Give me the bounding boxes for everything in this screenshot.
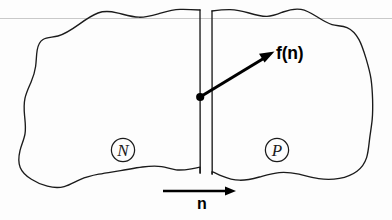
normal-vector-arrowhead — [225, 187, 236, 196]
traction-vector-label: f(n) — [276, 45, 303, 63]
region-p-badge: P — [265, 138, 288, 161]
figure-container: N P f(n) n — [0, 0, 392, 220]
region-n-badge: N — [111, 138, 134, 161]
region-p-outline — [212, 9, 373, 180]
traction-vector-shaft — [200, 57, 266, 97]
normal-vector-label: n — [197, 196, 207, 212]
region-n-label: N — [116, 141, 130, 160]
region-n-outline — [19, 9, 200, 187]
region-p-label: P — [271, 141, 282, 160]
diagram-canvas: N P — [0, 0, 392, 220]
point-of-action-dot — [196, 93, 204, 101]
